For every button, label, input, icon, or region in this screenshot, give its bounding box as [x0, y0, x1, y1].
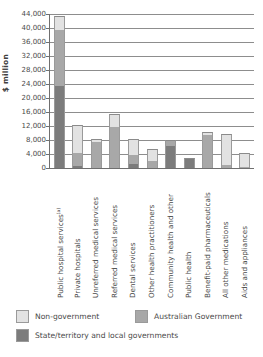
y-tick-label: 44,000: [22, 10, 47, 19]
y-tick-label: 8,000: [26, 136, 46, 145]
legend-swatch-non-government: [16, 310, 29, 323]
bar-segment: [91, 142, 102, 168]
x-tick-label: Benefit-paid pharmaceuticals: [202, 170, 213, 298]
gridline: [50, 112, 254, 113]
gridline: [50, 56, 254, 57]
x-tick-label: All other medications: [220, 170, 231, 298]
y-tick-label: 24,000: [22, 80, 47, 89]
y-tick-label: 36,000: [22, 38, 47, 47]
bar-aids-and-appliances: [239, 153, 250, 168]
x-tick-label: Unreferred medical services: [90, 170, 101, 298]
bar-segment: [239, 153, 250, 168]
bar-segment: [72, 166, 83, 168]
bar-dental-services: [128, 139, 139, 168]
footnote-marker: (a): [56, 208, 61, 214]
bar-segment: [184, 158, 195, 168]
bar-segment: [54, 30, 65, 86]
x-tick-label: Aids and appliances: [239, 170, 250, 298]
x-tick-label: Public hospital services(a): [53, 170, 64, 298]
bar-public-hospital-services: [54, 16, 65, 168]
bar-unreferred-medical-services: [91, 139, 102, 168]
bar-other-health-practitioners: [147, 149, 158, 168]
y-tick-label: 4,000: [26, 150, 46, 159]
chart-legend: Non-government Australian Government Sta…: [16, 309, 256, 347]
stacked-bar-chart: $ million 44,00040,00036,00032,00028,000…: [0, 0, 263, 357]
x-tick-label: Private hospitals: [72, 170, 83, 298]
bar-segment: [109, 127, 120, 168]
x-axis-line: [49, 168, 254, 169]
bar-segment: [54, 16, 65, 30]
legend-label-state-territory-local: State/territory and local governments: [35, 328, 178, 343]
bar-segment: [147, 149, 158, 161]
bar-segment: [165, 146, 176, 168]
gridline: [50, 70, 254, 71]
y-tick-label: 32,000: [22, 52, 47, 61]
plot-area: [50, 14, 254, 168]
legend-label-australian-government: Australian Government: [154, 309, 242, 324]
bar-public-health: [184, 158, 195, 168]
x-tick-label: Dental services: [127, 170, 138, 298]
gridline: [50, 14, 254, 15]
legend-swatch-state-territory-local: [16, 329, 29, 342]
x-tick-label: Referred medical services: [109, 170, 120, 298]
x-tick-label: Other health practitioners: [146, 170, 157, 298]
x-tick-label: Public health: [183, 170, 194, 298]
bar-segment: [91, 139, 102, 143]
bar-segment: [54, 86, 65, 168]
bar-segment: [128, 155, 139, 163]
y-tick-label: 20,000: [22, 94, 47, 103]
bar-private-hospitals: [72, 125, 83, 168]
gridline: [50, 84, 254, 85]
x-tick-label: Community health and other: [165, 170, 176, 298]
bar-community-health-and-other: [165, 140, 176, 168]
bar-segment: [165, 140, 176, 146]
legend-swatch-australian-government: [135, 310, 148, 323]
bar-segment: [109, 114, 120, 127]
bar-segment: [202, 132, 213, 135]
bar-segment: [72, 153, 83, 166]
legend-row-1: Non-government Australian Government: [16, 309, 256, 328]
bar-segment: [239, 167, 250, 168]
bar-segment: [221, 134, 232, 166]
gridline: [50, 28, 254, 29]
legend-row-2: State/territory and local governments: [16, 328, 256, 347]
gridline: [50, 98, 254, 99]
bar-referred-medical-services: [109, 114, 120, 168]
legend-label-non-government: Non-government: [35, 309, 99, 324]
bar-benefit-paid-pharmaceuticals: [202, 132, 213, 168]
bar-segment: [128, 139, 139, 155]
y-tick-label: 12,000: [22, 122, 47, 131]
bar-segment: [128, 164, 139, 168]
y-tick-label: 40,000: [22, 24, 47, 33]
y-tick-label: 16,000: [22, 108, 47, 117]
y-axis-tick-labels: 44,00040,00036,00032,00028,00024,00020,0…: [0, 0, 46, 357]
gridline: [50, 42, 254, 43]
bar-segment: [221, 165, 232, 168]
bar-segment: [147, 161, 158, 168]
y-tick-label: 28,000: [22, 66, 47, 75]
bar-segment: [72, 125, 83, 153]
bar-all-other-medications: [221, 134, 232, 168]
bar-segment: [202, 135, 213, 168]
x-axis-tick-labels: Public hospital services(a)Private hospi…: [50, 170, 254, 298]
